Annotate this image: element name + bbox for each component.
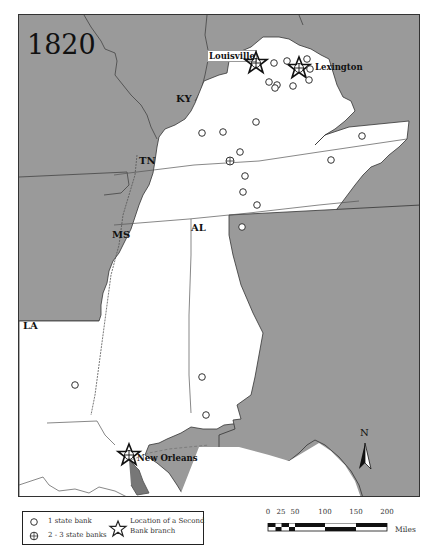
scale-bar: 0 25 50 100 150 200 Miles	[262, 508, 422, 540]
circle-icon	[31, 519, 38, 526]
legend-label-2-3-state-banks: 2 - 3 state banks	[48, 531, 107, 539]
state-bank-circles	[72, 56, 366, 419]
scale-tick-50: 50	[291, 508, 300, 516]
scale-tick-100: 100	[318, 508, 331, 516]
circle-cross-icon	[30, 532, 38, 540]
legend-label-1-state-bank: 1 state bank	[48, 517, 92, 525]
scale-tick-0: 0	[266, 508, 270, 516]
scale-bar-graphic	[262, 523, 394, 533]
star-icon-new-orleans	[118, 444, 140, 465]
legend-label-second-bank-2: Bank branch	[130, 527, 175, 535]
legend: 1 state bank 2 - 3 state banks Location …	[22, 511, 204, 545]
map-frame: 1820 KY TN MS AL LA Louisville Lexington…	[18, 14, 420, 497]
north-arrow-icon	[359, 443, 371, 469]
star-icon-louisville	[245, 52, 267, 73]
legend-label-second-bank: Location of a Second	[130, 517, 204, 525]
scale-tick-25: 25	[277, 508, 286, 516]
star-icon	[110, 521, 126, 536]
scale-tick-200: 200	[380, 508, 393, 516]
scale-unit: Miles	[395, 525, 416, 534]
scale-tick-150: 150	[349, 508, 362, 516]
north-arrow-label: N	[360, 427, 369, 438]
map-symbols	[19, 15, 420, 497]
state-banks-2-3-icon	[226, 157, 234, 165]
